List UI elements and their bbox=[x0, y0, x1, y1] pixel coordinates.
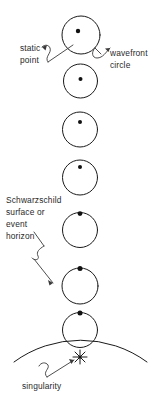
wavefront-circle-2 bbox=[64, 64, 98, 98]
singularity-leader bbox=[39, 359, 74, 377]
wavefront-circle-outline bbox=[63, 213, 98, 248]
wavefront-circle-7 bbox=[63, 311, 98, 348]
diagram-canvas: static point wavefront circle Schwarzsch… bbox=[0, 0, 163, 397]
wavefront-circle-outline bbox=[63, 313, 98, 348]
schwarzschild-leader-line2 bbox=[34, 259, 53, 283]
static-point-label-line2: point bbox=[20, 55, 39, 65]
wavefront-circle-label-line2: circle bbox=[110, 60, 131, 70]
singularity-leader-line bbox=[47, 360, 74, 377]
wavefront-circle-3 bbox=[63, 112, 98, 147]
wavefront-circle-label-line1: wavefront bbox=[109, 48, 148, 58]
schwarzschild-leader bbox=[32, 232, 53, 286]
schwarzschild-label-line4: horizon bbox=[6, 231, 35, 241]
static-point-dot bbox=[78, 311, 83, 316]
schwarzschild-leader-squiggle bbox=[32, 246, 44, 260]
schwarzschild-leader-line bbox=[34, 232, 44, 246]
schwarzschild-label-line2: surface or bbox=[6, 207, 45, 217]
static-point-dot bbox=[78, 165, 82, 169]
static-point-dot bbox=[78, 120, 82, 124]
static-point-dot bbox=[78, 266, 83, 271]
wavefront-circle-4 bbox=[63, 160, 98, 195]
static-point-label-line1: static bbox=[20, 43, 40, 53]
static-point-leader bbox=[42, 45, 73, 62]
static-point-dot bbox=[78, 211, 83, 216]
schwarzschild-label-line3: event bbox=[6, 219, 28, 229]
singularity-leader-squiggle bbox=[39, 363, 48, 377]
wavefront-leader-line bbox=[95, 48, 101, 54]
wavefront-circle-outline bbox=[63, 112, 98, 147]
wavefront-circle-outline bbox=[62, 268, 98, 304]
wavefront-circle-6 bbox=[62, 266, 98, 304]
physics-diagram-figure: static point wavefront circle Schwarzsch… bbox=[0, 0, 163, 397]
schwarzschild-arrowhead bbox=[48, 280, 53, 286]
singularity-label: singularity bbox=[22, 381, 62, 391]
schwarzschild-label-line1: Schwarzschild bbox=[6, 195, 62, 205]
singularity-marker bbox=[73, 350, 87, 364]
wavefront-circle-5 bbox=[63, 211, 98, 247]
static-point-dot bbox=[79, 77, 83, 81]
singularity-arrowhead bbox=[69, 359, 74, 364]
static-point-leader-line bbox=[48, 45, 73, 62]
singularity-core-dot bbox=[78, 355, 81, 358]
static-point-dot bbox=[76, 29, 80, 33]
wavefront-circle-leader bbox=[93, 48, 110, 58]
